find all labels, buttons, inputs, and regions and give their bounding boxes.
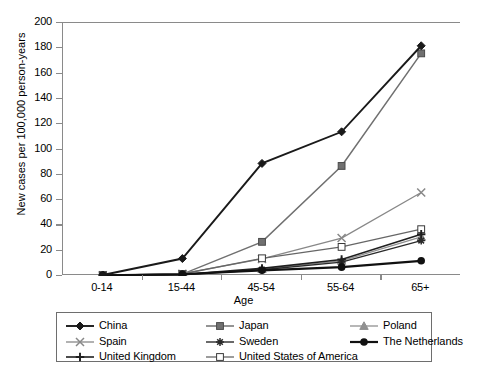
x-tick-label: 55-64	[301, 281, 381, 293]
legend-item-label: Poland	[383, 320, 417, 331]
y-tick-mark	[56, 22, 62, 23]
data-point-filled-diamond	[76, 322, 84, 330]
data-point-filled-square	[418, 50, 425, 57]
y-tick-label: 40	[0, 218, 52, 229]
chart-legend: ChinaJapanPolandSpainSwedenThe Netherlan…	[56, 312, 432, 362]
x-axis-title: Age	[0, 294, 487, 306]
y-tick-label: 120	[0, 117, 52, 128]
legend-marker-filled-triangle-icon	[349, 319, 379, 333]
y-tick-mark	[56, 224, 62, 225]
x-tick-mark	[221, 275, 222, 280]
data-point-open-square	[259, 255, 266, 262]
legend-item[interactable]: China	[65, 318, 127, 333]
data-point-asterisk	[216, 338, 224, 346]
data-point-open-square	[217, 353, 224, 360]
chart-series-svg	[63, 23, 461, 276]
legend-item[interactable]: Japan	[205, 318, 268, 333]
data-point-filled-square	[338, 163, 345, 170]
y-tick-label: 200	[0, 16, 52, 27]
data-point-filled-square	[259, 238, 266, 245]
y-tick-label: 20	[0, 244, 52, 255]
y-tick-mark	[56, 73, 62, 74]
legend-item[interactable]: Spain	[65, 334, 127, 349]
legend-item-label: United Kingdom	[99, 351, 176, 362]
series-spain	[99, 189, 425, 276]
x-tick-mark	[301, 275, 302, 280]
legend-marker-cross-x-icon	[65, 335, 95, 349]
legend-grid: ChinaJapanPolandSpainSwedenThe Netherlan…	[57, 313, 431, 361]
x-tick-label: 0-14	[62, 281, 142, 293]
x-tick-label: 45-54	[221, 281, 301, 293]
data-point-filled-circle	[417, 257, 425, 265]
legend-item-label: Spain	[99, 336, 127, 347]
x-tick-label: 65+	[380, 281, 460, 293]
data-point-plus	[76, 352, 84, 360]
x-tick-label: 15-44	[141, 281, 221, 293]
plot-area	[62, 22, 460, 275]
legend-item[interactable]: Poland	[349, 318, 417, 333]
data-point-open-square	[338, 244, 345, 251]
legend-item-label: Japan	[239, 320, 268, 331]
data-point-filled-square	[217, 322, 224, 329]
y-tick-mark	[56, 275, 62, 276]
legend-item[interactable]: United States of America	[205, 349, 358, 364]
legend-item-label: United States of America	[239, 351, 358, 362]
x-tick-mark	[380, 275, 381, 280]
chart-figure: New cases per 100,000 person-years Age C…	[0, 0, 487, 378]
y-tick-mark	[56, 98, 62, 99]
y-tick-label: 140	[0, 92, 52, 103]
legend-marker-plus-icon	[65, 350, 95, 364]
y-tick-mark	[56, 149, 62, 150]
series-line	[103, 193, 421, 276]
y-tick-label: 160	[0, 67, 52, 78]
data-point-filled-circle	[360, 338, 368, 346]
legend-item-label: Sweden	[239, 336, 278, 347]
legend-marker-filled-diamond-icon	[65, 319, 95, 333]
legend-item[interactable]: The Netherlands	[349, 334, 463, 349]
legend-item[interactable]: United Kingdom	[65, 349, 176, 364]
x-tick-mark	[142, 275, 143, 280]
data-point-filled-circle	[258, 267, 266, 275]
y-tick-mark	[56, 47, 62, 48]
data-point-cross-x	[338, 234, 346, 242]
y-tick-mark	[56, 199, 62, 200]
data-point-filled-circle	[338, 263, 346, 271]
y-tick-label: 80	[0, 168, 52, 179]
legend-marker-filled-square-icon	[205, 319, 235, 333]
legend-marker-filled-circle-icon	[349, 335, 379, 349]
legend-item-label: China	[99, 320, 127, 331]
y-tick-mark	[56, 174, 62, 175]
y-tick-mark	[56, 250, 62, 251]
data-point-cross-x	[417, 189, 425, 197]
y-tick-label: 60	[0, 193, 52, 204]
legend-item-label: The Netherlands	[383, 336, 463, 347]
legend-marker-asterisk-icon	[205, 335, 235, 349]
y-tick-label: 0	[0, 269, 52, 280]
y-tick-mark	[56, 123, 62, 124]
y-tick-label: 100	[0, 143, 52, 154]
y-tick-label: 180	[0, 41, 52, 52]
legend-item[interactable]: Sweden	[205, 334, 278, 349]
legend-marker-open-square-icon	[205, 350, 235, 364]
